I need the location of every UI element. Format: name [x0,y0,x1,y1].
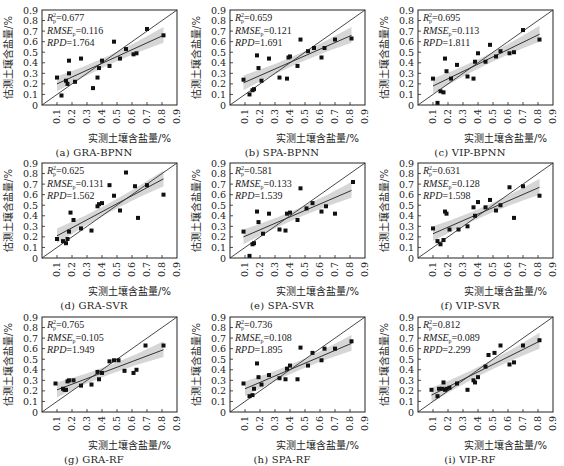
data-point [350,37,354,41]
data-point [64,388,68,392]
x-tick-label: 0.4 [96,262,107,277]
rpd-stat: RPD=1.562 [46,190,95,201]
scatter-plot: 00.10.20.30.40.50.60.70.80.90.10.20.30.4… [188,0,376,155]
r2-stat: R2p=0.812 [422,319,460,331]
x-tick-label: 0.8 [156,416,167,431]
data-point [67,230,71,234]
data-point [320,358,324,362]
x-tick-label: 0.2 [254,109,265,124]
data-point [436,394,440,398]
data-point [306,364,310,368]
data-point [252,87,256,91]
scatter-plot: 00.10.20.30.40.50.60.70.80.90.10.20.30.4… [376,0,564,155]
data-point [457,228,461,232]
data-point [251,393,255,397]
data-point [311,201,315,205]
panel-caption: (g) GRA-RF [0,454,188,465]
data-point [299,346,303,350]
y-tick-label: 0.8 [211,15,226,26]
x-tick-label: 0.2 [442,109,453,124]
data-point [472,205,476,209]
data-point [79,226,83,230]
x-tick-label: 0.7 [141,109,152,124]
y-tick-label: 0.5 [399,47,414,58]
x-axis-label: 实测土壤含盐量/% [464,132,547,144]
data-point [117,358,121,362]
data-point [320,56,324,60]
data-point [521,28,525,32]
data-point [257,375,261,379]
data-point [145,183,149,187]
scatter-plot: 00.10.20.30.40.50.60.70.80.90.10.20.30.4… [0,153,188,308]
x-tick-label: 0.3 [269,109,280,124]
x-tick-label: 0.9 [359,109,370,124]
y-tick-label: 0.6 [211,189,226,200]
data-point [255,361,259,365]
y-tick-label: 0.8 [23,322,38,333]
y-tick-label: 0.7 [399,333,414,344]
y-tick-label: 0.9 [399,158,414,169]
y-tick-label: 0 [408,100,414,111]
panel-d: 00.10.20.30.40.50.60.70.80.90.10.20.30.4… [0,153,188,308]
y-tick-label: 0.6 [211,343,226,354]
y-axis-label: 估测土壤含盐量/% [190,16,202,99]
scatter-plot: 00.10.20.30.40.50.60.70.80.90.10.20.30.4… [188,153,376,308]
y-tick-label: 0.1 [211,242,226,253]
data-point [136,216,140,220]
data-point [285,77,289,81]
data-point [324,204,328,208]
data-point [473,60,477,64]
rpd-stat: RPD=1.895 [234,344,283,355]
data-point [267,212,271,216]
x-tick-label: 0.2 [66,262,77,277]
data-point [79,57,83,61]
data-point [442,380,446,384]
rmse-stat: RMSEp=0.116 [46,25,103,37]
x-axis-label: 实测土壤含盐量/% [276,132,359,144]
rpd-stat: RPD=1.539 [234,190,283,201]
rmse-stat: RMSEp=0.128 [422,178,480,190]
r2-stat: R2p=0.736 [234,319,272,331]
panel-i: 00.10.20.30.40.50.60.70.80.90.10.20.30.4… [376,307,564,462]
y-axis-label: 估测土壤含盐量/% [190,169,202,252]
r2-stat: R2p=0.765 [46,319,84,331]
y-tick-label: 0.3 [23,68,38,79]
x-tick-label: 0.2 [442,416,453,431]
data-point [96,76,100,80]
rpd-stat: RPD=1.598 [422,190,471,201]
data-point [508,363,512,367]
x-tick-label: 0.4 [284,109,295,124]
y-tick-label: 0.2 [211,231,226,242]
y-tick-label: 0 [32,407,38,418]
data-point [284,229,288,233]
r2-stat: R2p=0.677 [46,12,84,24]
y-tick-label: 0 [32,100,38,111]
y-tick-label: 0.9 [399,312,414,323]
data-point [54,382,58,386]
x-tick-label: 0.2 [66,416,77,431]
x-tick-label: 0.5 [299,109,310,124]
x-tick-label: 0.4 [284,416,295,431]
data-point [257,66,261,70]
x-tick-label: 0.4 [96,416,107,431]
y-tick-label: 0.7 [23,179,38,190]
y-tick-label: 0.8 [399,322,414,333]
data-point [66,237,70,241]
data-point [242,382,246,386]
data-point [351,180,355,184]
y-tick-label: 0.3 [211,375,226,386]
y-tick-label: 0.2 [211,78,226,89]
y-tick-label: 0.7 [211,26,226,37]
x-tick-label: 0.9 [547,262,558,277]
data-point [90,383,94,387]
y-tick-label: 0.6 [399,343,414,354]
x-tick-label: 0.1 [427,416,438,431]
rmse-stat: RMSEp=0.105 [46,332,104,344]
y-tick-label: 0.2 [211,385,226,396]
data-point [306,49,310,53]
data-point [67,59,71,63]
data-point [333,212,337,216]
data-point [288,364,292,368]
data-point [333,38,337,42]
data-point [521,344,525,348]
